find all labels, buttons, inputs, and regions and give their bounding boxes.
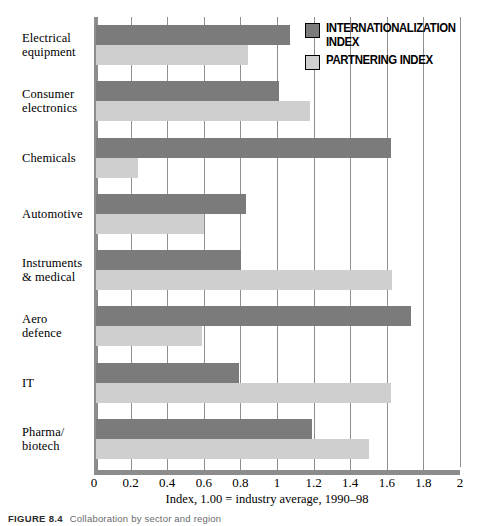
category-label-line: IT xyxy=(22,376,86,390)
x-tick-label: 0.2 xyxy=(122,475,138,491)
category-axis: ElectricalequipmentConsumerelectronicsCh… xyxy=(0,20,88,470)
x-tick-label: 1 xyxy=(274,475,281,491)
bar-partnering xyxy=(96,383,391,403)
category-label: Consumerelectronics xyxy=(0,87,86,115)
gridline xyxy=(94,17,95,472)
bar-group xyxy=(96,414,462,470)
bar-partnering xyxy=(96,45,248,65)
category-label-line: & medical xyxy=(22,270,86,284)
bar-group xyxy=(96,133,462,189)
x-tick-label: 2 xyxy=(457,475,464,491)
category-label: Electricalequipment xyxy=(0,31,86,59)
bar-group xyxy=(96,76,462,132)
category-label-line: Electrical xyxy=(22,31,86,45)
bar-internationalization xyxy=(96,306,411,326)
category-label-line: Chemicals xyxy=(22,151,86,165)
category-label: IT xyxy=(0,376,86,390)
bar-partnering xyxy=(96,326,202,346)
x-tick-label: 1.6 xyxy=(379,475,395,491)
category-label: Aerodefence xyxy=(0,312,86,340)
x-tick-label: 1.4 xyxy=(342,475,358,491)
legend-label: INTERNATIONALIZATIONINDEX xyxy=(326,22,456,49)
bar-group xyxy=(96,301,462,357)
bar-group xyxy=(96,358,462,414)
bar-partnering xyxy=(96,158,138,178)
category-label: Pharma/biotech xyxy=(0,425,86,453)
category-label-line: electronics xyxy=(22,101,86,115)
figure-caption-id: FIGURE 8.4 xyxy=(8,513,63,524)
category-label-line: Automotive xyxy=(22,207,86,221)
bar-group xyxy=(96,245,462,301)
chart-legend: INTERNATIONALIZATIONINDEXPARTNERING INDE… xyxy=(305,22,471,75)
figure-caption: FIGURE 8.4Collaboration by sector and re… xyxy=(8,513,478,524)
bar-internationalization xyxy=(96,250,241,270)
x-tick-label: 0 xyxy=(91,475,98,491)
bar-partnering xyxy=(96,101,310,121)
plot-area xyxy=(94,20,462,470)
x-tick-label: 0.4 xyxy=(159,475,175,491)
x-tick-label: 0.8 xyxy=(232,475,248,491)
category-label-line: biotech xyxy=(22,439,86,453)
x-axis-title: Index, 1.00 = industry average, 1990–98 xyxy=(0,492,478,507)
bar-partnering xyxy=(96,439,369,459)
legend-item: PARTNERING INDEX xyxy=(305,54,471,70)
category-label: Chemicals xyxy=(0,151,86,165)
x-axis-ticklabels: 00.20.40.60.811.21.41.61.82 xyxy=(94,475,474,493)
figure-container: ElectricalequipmentConsumerelectronicsCh… xyxy=(0,0,478,526)
legend-label-line: INTERNATIONALIZATION xyxy=(326,22,456,36)
legend-item: INTERNATIONALIZATIONINDEX xyxy=(305,22,471,49)
legend-swatch-internationalization xyxy=(305,23,320,38)
bar-group xyxy=(96,189,462,245)
x-tick-label: 0.6 xyxy=(196,475,212,491)
figure-caption-text: Collaboration by sector and region xyxy=(70,513,222,524)
category-label: Instruments& medical xyxy=(0,256,86,284)
bar-internationalization xyxy=(96,138,391,158)
category-label: Automotive xyxy=(0,207,86,221)
legend-label-line: INDEX xyxy=(326,36,456,50)
legend-label: PARTNERING INDEX xyxy=(326,54,433,68)
category-label-line: Pharma/ xyxy=(22,425,86,439)
bar-partnering xyxy=(96,270,392,290)
legend-label-line: PARTNERING INDEX xyxy=(326,54,433,68)
x-tick-label: 1.2 xyxy=(305,475,321,491)
category-label-line: defence xyxy=(22,326,86,340)
legend-swatch-partnering xyxy=(305,55,320,70)
category-label-line: Aero xyxy=(22,312,86,326)
bar-internationalization xyxy=(96,194,246,214)
bar-partnering xyxy=(96,214,204,234)
category-label-line: equipment xyxy=(22,45,86,59)
bar-internationalization xyxy=(96,81,279,101)
category-label-line: Instruments xyxy=(22,256,86,270)
x-tick-label: 1.8 xyxy=(415,475,431,491)
bar-internationalization xyxy=(96,419,312,439)
bar-internationalization xyxy=(96,25,290,45)
bar-internationalization xyxy=(96,363,239,383)
category-label-line: Consumer xyxy=(22,87,86,101)
